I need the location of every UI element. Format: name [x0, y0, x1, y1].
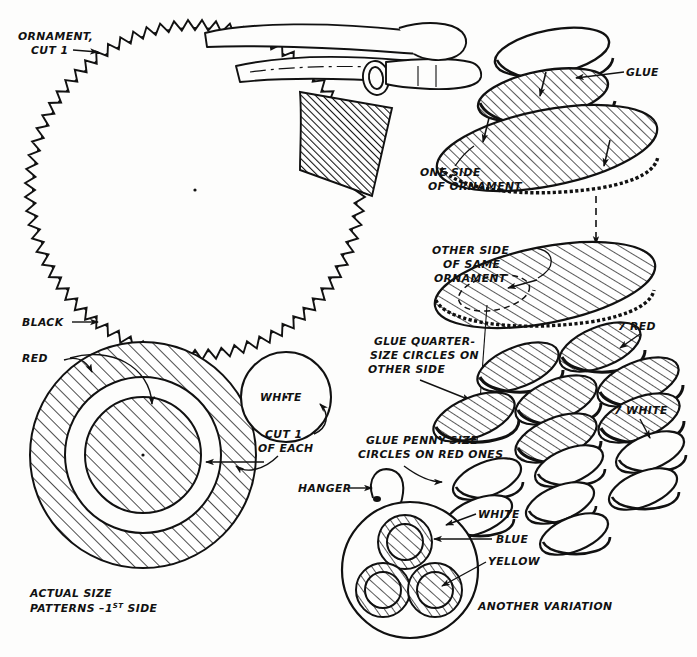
- ornament-diagram-svg: ORNAMENT, CUT 1 BLACK WHITE RED CUT 1 OF…: [0, 0, 697, 657]
- red-label: RED: [22, 352, 48, 365]
- one-side-line2: OF ORNAMENT: [428, 180, 523, 193]
- seven-red-label: 7 RED: [618, 320, 656, 333]
- variation-inner-disc: [356, 563, 410, 617]
- hanger-label: HANGER: [298, 482, 351, 495]
- shears-handle-shank: [386, 59, 481, 89]
- ornament-cut1-line2: CUT 1: [31, 44, 68, 57]
- other-side-line1: OTHER SIDE: [432, 244, 509, 257]
- actual-size-post: SIDE: [123, 602, 157, 615]
- black-label: BLACK: [22, 316, 65, 329]
- ornament-cut1-line1: ORNAMENT,: [18, 30, 93, 43]
- actual-size-pattern-rings: [30, 342, 256, 568]
- hanger-knot: [373, 496, 381, 502]
- glue-quarter-line1: GLUE QUARTER-: [374, 335, 475, 348]
- actual-size-line1: ACTUAL SIZE: [29, 587, 112, 600]
- glue-penny-line2: CIRCLES ON RED ONES: [358, 448, 503, 461]
- var-white-label: WHITE: [478, 508, 520, 521]
- var-yellow-label: YELLOW: [488, 555, 541, 568]
- glue-quarter-line2: SIZE CIRCLES ON: [370, 349, 479, 362]
- seven-white-label: 7 WHITE: [614, 404, 668, 417]
- glue-label: GLUE: [626, 66, 659, 79]
- variation-inner-disc: [408, 563, 462, 617]
- pattern-center-mark: [141, 453, 144, 456]
- disc-center-mark: [193, 188, 196, 191]
- glue-penny-line1: GLUE PENNY-SIZE: [366, 434, 478, 447]
- other-side-line3: ORNAMENT: [434, 272, 508, 285]
- glue-quarter-line3: OTHER SIDE: [368, 363, 445, 376]
- one-side-line1: ONE SIDE: [420, 166, 481, 179]
- cut1-line2: OF EACH: [258, 442, 313, 455]
- cut1-line1: CUT 1: [265, 428, 302, 441]
- var-blue-label: BLUE: [496, 533, 528, 546]
- other-side-line2: OF SAME: [443, 258, 501, 271]
- actual-size-line2: PATTERNS –1ST SIDE: [30, 602, 158, 615]
- diagram-sheet: ORNAMENT, CUT 1 BLACK WHITE RED CUT 1 OF…: [0, 0, 697, 657]
- actual-size-pre: PATTERNS –1: [30, 602, 113, 615]
- white-label: WHITE: [260, 391, 302, 404]
- variation-inner-disc: [378, 515, 432, 569]
- another-variation-caption: ANOTHER VARIATION: [477, 600, 612, 613]
